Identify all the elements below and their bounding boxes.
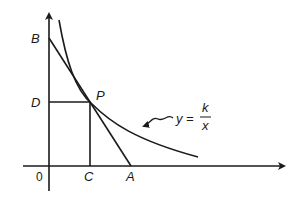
label-C: C bbox=[84, 169, 94, 184]
label-origin: 0 bbox=[36, 170, 43, 184]
label-P: P bbox=[96, 88, 105, 103]
label-B: B bbox=[31, 31, 40, 46]
diagram-canvas: B D P 0 C A y = k x bbox=[0, 0, 304, 198]
equation-numerator: k bbox=[202, 100, 210, 115]
pointer-arrow bbox=[144, 116, 173, 126]
hyperbola-curve bbox=[59, 20, 198, 157]
label-D: D bbox=[31, 95, 40, 110]
label-A: A bbox=[125, 169, 135, 184]
equation-lhs: y = bbox=[175, 111, 194, 126]
equation-denominator: x bbox=[201, 118, 209, 133]
